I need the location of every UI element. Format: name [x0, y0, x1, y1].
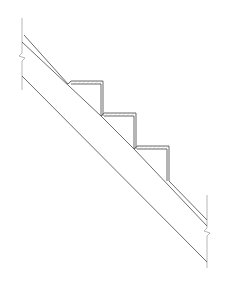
stair-stringer: [22, 35, 207, 262]
right-break-line: [204, 195, 210, 268]
stair-section-drawing: [0, 0, 230, 281]
step-3: [134, 146, 169, 181]
left-break-line: [19, 18, 25, 90]
step-2: [101, 113, 136, 149]
step-1: [68, 81, 103, 116]
